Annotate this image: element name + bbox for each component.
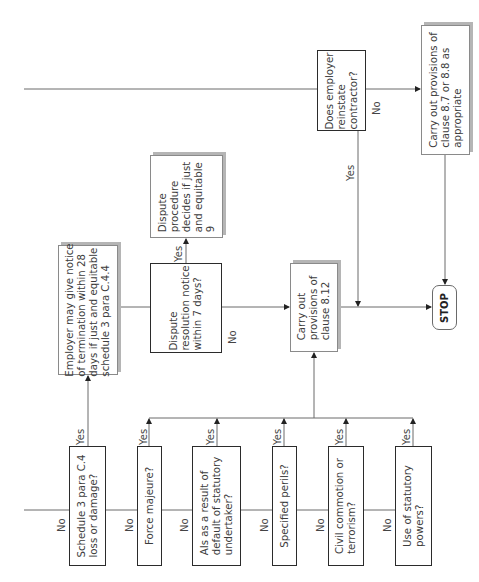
- label-schedule3-yes: Yes: [75, 429, 86, 445]
- employer-notice-text: Employer may give notice of termination …: [64, 243, 112, 376]
- label-undertaker-yes: Yes: [205, 429, 216, 445]
- label-civil-no: No: [315, 518, 326, 532]
- label-force-majeure-yes: Yes: [138, 429, 149, 445]
- label-reinstate-no: No: [371, 101, 382, 115]
- statutory-powers-text: Use of statutory powers?: [402, 465, 426, 547]
- label-powers-yes: Yes: [401, 429, 412, 445]
- reinstate-text: Does employer reinstate contractor?: [324, 52, 360, 129]
- stop-terminator-box: STOP: [432, 285, 457, 330]
- schedule3-text: Schedule 3 para C.4 loss or damage?: [76, 455, 100, 558]
- civil-commotion-text: Civil commotion or terrorism?: [334, 458, 358, 554]
- label-undertaker-no: No: [179, 518, 190, 532]
- statutory-powers-decision-box: Use of statutory powers?: [395, 446, 432, 566]
- label-civil-yes: Yes: [334, 429, 345, 445]
- clause-87-88-process-box: Carry out provisions of clause 8.7 or 8.…: [421, 25, 470, 155]
- dispute-procedure-text: Dispute procedure decides if just and eq…: [157, 161, 217, 232]
- label-powers-no: No: [382, 518, 393, 532]
- clause-87-88-text: Carry out provisions of clause 8.7 or 8.…: [428, 32, 464, 147]
- specified-perils-decision-box: Specified perils?: [272, 446, 297, 566]
- force-majeure-text: Force majeure?: [144, 467, 156, 545]
- stop-text: STOP: [439, 293, 451, 323]
- statutory-undertaker-decision-box: AIs as a result of default of statutory …: [192, 446, 241, 566]
- schedule3-decision-box: Schedule 3 para C.4 loss or damage?: [69, 446, 106, 566]
- label-dispute-resolution-yes: Yes: [173, 246, 184, 262]
- label-force-majeure-no: No: [124, 518, 135, 532]
- flowchart-canvas: Schedule 3 para C.4 loss or damage? Forc…: [0, 0, 479, 582]
- clause-812-text: Carry out provisions of clause 8.12: [296, 275, 332, 340]
- label-perils-no: No: [259, 518, 270, 532]
- dispute-resolution-decision-box: Dispute resolution notice within 7 days?: [150, 263, 222, 353]
- civil-commotion-decision-box: Civil commotion or terrorism?: [328, 446, 364, 566]
- employer-notice-process-box: Employer may give notice of termination …: [58, 245, 118, 375]
- dispute-procedure-process-box: Dispute procedure decides if just and eq…: [150, 155, 223, 238]
- specified-perils-text: Specified perils?: [279, 464, 291, 547]
- dispute-resolution-text: Dispute resolution notice within 7 days?: [168, 265, 204, 350]
- clause-812-process-box: Carry out provisions of clause 8.12: [290, 263, 338, 352]
- label-reinstate-yes: Yes: [345, 165, 356, 181]
- statutory-undertaker-text: AIs as a result of default of statutory …: [199, 457, 235, 556]
- label-schedule3-no: No: [56, 518, 67, 532]
- force-majeure-decision-box: Force majeure?: [137, 446, 162, 566]
- label-dispute-resolution-no: No: [227, 330, 238, 344]
- label-perils-yes: Yes: [272, 429, 283, 445]
- reinstate-decision-box: Does employer reinstate contractor?: [317, 50, 366, 131]
